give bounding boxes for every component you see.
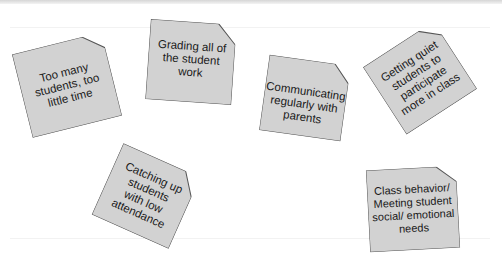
sticky-note-quiet-students[interactable]: Getting quiet students to participate mo… — [363, 22, 477, 135]
note-label: Getting quiet students to participate mo… — [363, 22, 477, 135]
note-label: Grading all of the student work — [145, 19, 236, 105]
sticky-note-communicating[interactable]: Communicating regularly with parents — [259, 55, 351, 142]
divider — [10, 27, 490, 28]
note-label: Catching up students with low attendance — [92, 143, 200, 248]
sticky-note-catching-up[interactable]: Catching up students with low attendance — [92, 143, 200, 248]
sticky-note-class-behavior[interactable]: Class behavior/ Meeting student social/ … — [366, 166, 460, 253]
note-label: Communicating regularly with parents — [259, 55, 351, 142]
note-label: Class behavior/ Meeting student social/ … — [366, 166, 460, 253]
sticky-note-grading[interactable]: Grading all of the student work — [145, 19, 236, 105]
sticky-note-too-many-students[interactable]: Too many students, too little time — [12, 32, 122, 138]
note-label: Too many students, too little time — [12, 32, 122, 138]
top-band — [0, 0, 502, 4]
